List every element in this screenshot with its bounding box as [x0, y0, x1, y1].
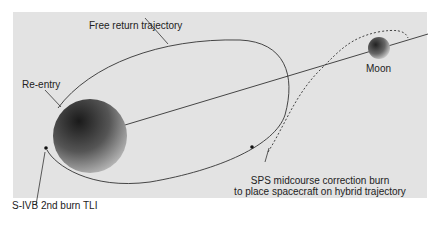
label-moon: Moon	[366, 63, 391, 74]
earth	[53, 99, 127, 173]
label-tli: S-IVB 2nd burn TLI	[12, 200, 97, 211]
label-sps-line2: to place spacecraft on hybrid trajectory	[200, 186, 440, 197]
leader-reentry	[45, 90, 61, 107]
label-sps-line1: SPS midcourse correction burn	[230, 175, 410, 186]
leader-sps	[265, 148, 269, 162]
moon	[368, 37, 390, 59]
label-reentry: Re-entry	[22, 79, 60, 90]
tli-point	[44, 146, 48, 150]
label-free-return: Free return trajectory	[89, 20, 182, 31]
leader-tli	[36, 152, 45, 205]
sps-burn-point	[250, 145, 254, 149]
